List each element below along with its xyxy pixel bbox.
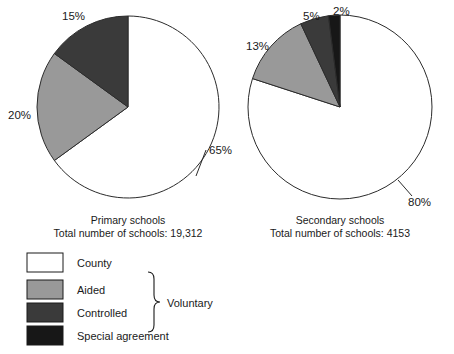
caption-primary-total: Total number of schools: 19,312 [54,227,203,239]
legend-label-county: County [77,257,112,269]
legend: CountyAidedControlledSpecial agreement [27,253,169,345]
pie-primary-schools: 65%20%15% [8,10,232,198]
legend-swatch-county [27,253,63,272]
caption-secondary-title: Secondary schools [296,214,385,226]
legend-swatch-controlled [27,303,63,322]
percent-label-aided: 20% [8,109,31,121]
leader-line-80pct [398,180,412,196]
caption-primary: Primary schools Total number of schools:… [54,214,203,239]
legend-group-label-voluntary: Voluntary [167,297,213,309]
voluntary-brace-icon [148,272,160,332]
percent-label-controlled: 5% [303,10,320,22]
legend-label-special-agreement: Special agreement [77,330,169,342]
caption-secondary: Secondary schools Total number of school… [270,214,410,239]
legend-label-aided: Aided [77,284,105,296]
pie-secondary-schools: 80%13%5%2% [246,5,432,208]
percent-label-special-agreement: 2% [333,5,350,17]
caption-primary-title: Primary schools [91,214,166,226]
legend-swatch-special-agreement [27,326,63,345]
percent-label-aided: 13% [246,40,269,52]
percent-label-county: 80% [408,196,431,208]
caption-secondary-total: Total number of schools: 4153 [270,227,410,239]
pie-primary-slices [37,16,219,198]
legend-swatch-aided [27,280,63,299]
pie-chart-figure: 65%20%15% 80%13%5%2% Primary schools Tot… [0,0,454,354]
percent-label-controlled: 15% [62,10,85,22]
pie-secondary-slices [248,15,432,199]
percent-label-county: 65% [209,144,232,156]
legend-label-controlled: Controlled [77,307,127,319]
